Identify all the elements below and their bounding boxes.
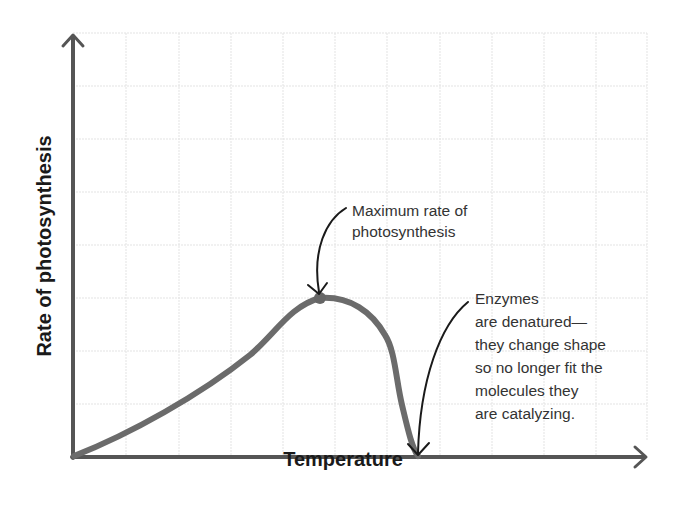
chart-canvas	[0, 0, 678, 521]
max-rate-arrow	[317, 208, 346, 292]
denatured-line-1: Enzymes	[475, 287, 606, 310]
denatured-arrow	[418, 302, 468, 453]
denatured-line-6: are catalyzing.	[475, 402, 606, 425]
denatured-line-3: they change shape	[475, 333, 606, 356]
denatured-line-5: molecules they	[475, 379, 606, 402]
denatured-line-2: are denatured—	[475, 310, 606, 333]
y-axis-label: Rate of photosynthesis	[33, 135, 56, 356]
max-rate-line-1: Maximum rate of	[352, 200, 467, 221]
max-rate-line-2: photosynthesis	[352, 221, 467, 242]
x-axis-label: Temperature	[283, 448, 403, 471]
denatured-line-4: so no longer fit the	[475, 356, 606, 379]
denatured-annotation: Enzymes are denatured— they change shape…	[475, 287, 606, 425]
max-rate-annotation: Maximum rate of photosynthesis	[352, 200, 467, 242]
